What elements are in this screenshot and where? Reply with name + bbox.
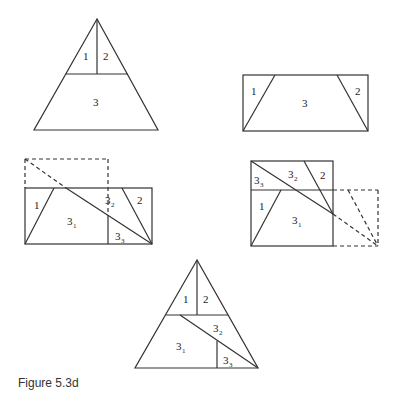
label-1: 1 [183, 293, 189, 305]
label-2: 2 [355, 85, 361, 97]
triangle-top [34, 19, 158, 130]
label-1: 1 [259, 200, 265, 212]
label-3: 3 [302, 97, 308, 109]
label-3-2-sub: 2 [111, 201, 115, 209]
triangle-bottom [135, 260, 258, 368]
label-1: 1 [34, 199, 40, 211]
rect-mid-left [25, 159, 152, 244]
square-mid-right [251, 161, 378, 246]
label-3-3-sub: 3 [229, 361, 233, 369]
label-3-2-sub: 2 [294, 175, 298, 183]
label-1: 1 [83, 50, 89, 62]
label-3-3-sub: 3 [260, 181, 264, 189]
figure-caption: Figure 5.3d [18, 376, 79, 390]
label-3-3-sub: 3 [121, 237, 125, 245]
label-3-1-sub: 1 [182, 347, 186, 355]
label-2: 2 [203, 293, 209, 305]
label-3-1-sub: 1 [73, 222, 77, 230]
dissection-diagram: 1 2 3 1 3 2 1 3 1 3 2 2 3 3 3 3 3 2 2 1 … [0, 0, 398, 409]
label-3-1-sub: 1 [298, 221, 302, 229]
label-3-2-sub: 2 [219, 329, 223, 337]
label-2: 2 [137, 194, 143, 206]
label-3: 3 [93, 96, 99, 108]
labels: 1 2 3 1 3 2 1 3 1 3 2 2 3 3 3 3 3 2 2 1 … [34, 50, 361, 369]
label-1: 1 [251, 85, 257, 97]
label-2: 2 [320, 169, 326, 181]
label-2: 2 [103, 50, 109, 62]
